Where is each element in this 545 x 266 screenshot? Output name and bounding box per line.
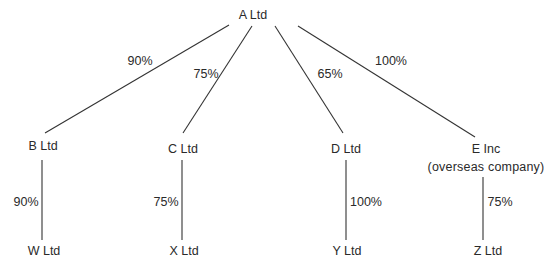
edge-a-e [298,26,475,137]
node-w-ltd: W Ltd [28,245,61,258]
node-z-ltd: Z Ltd [474,245,503,258]
holding-a-b: 90% [127,55,152,68]
holding-b-w: 90% [13,196,38,209]
node-y-ltd: Y Ltd [333,245,362,258]
holding-e-z: 75% [487,196,512,209]
node-x-ltd: X Ltd [169,245,198,258]
node-a-ltd: A Ltd [239,9,268,22]
node-d-ltd: D Ltd [331,143,361,156]
node-e-inc: E Inc [472,143,501,156]
holding-a-c: 75% [193,68,218,81]
holding-c-x: 75% [153,196,178,209]
holding-a-e: 100% [375,55,407,68]
holding-d-y: 100% [350,196,382,209]
group-structure-diagram: A Ltd 90% 75% 65% 100% B Ltd C Ltd D Ltd… [0,0,545,266]
connector-lines [0,0,545,266]
node-b-ltd: B Ltd [28,140,57,153]
holding-a-d: 65% [317,68,342,81]
node-c-ltd: C Ltd [168,143,198,156]
node-e-inc-note: (overseas company) [428,161,545,174]
